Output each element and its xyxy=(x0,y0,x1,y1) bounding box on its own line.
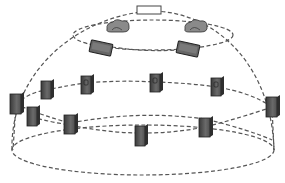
apex-panel-icon xyxy=(137,6,161,14)
pad-node-left-icon xyxy=(89,40,113,56)
server-4-icon xyxy=(150,72,163,92)
server-6-icon xyxy=(266,95,280,117)
server-2-icon xyxy=(41,79,54,99)
cloud-node-right-icon xyxy=(185,20,207,32)
pad-node-right-icon xyxy=(176,41,200,57)
cloud-node-left-icon xyxy=(107,20,129,32)
server-9-icon xyxy=(135,124,148,146)
dome-diagram-svg xyxy=(0,0,285,183)
tier3-ring xyxy=(16,81,272,107)
server-3-icon xyxy=(81,74,94,94)
server-10-icon xyxy=(199,116,213,137)
server-7-icon xyxy=(27,105,40,126)
server-5-icon xyxy=(211,76,224,96)
dome-diagram xyxy=(0,0,285,183)
server-8-icon xyxy=(64,113,78,134)
server-1-icon xyxy=(10,92,24,114)
